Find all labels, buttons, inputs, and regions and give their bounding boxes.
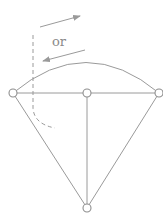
pendulum-diagram: or: [0, 0, 163, 220]
node-center: [83, 89, 91, 97]
arrow-left-icon: [43, 50, 85, 61]
arrow-right-icon: [40, 16, 80, 27]
or-label: or: [52, 34, 67, 49]
node-right: [155, 89, 163, 97]
top-arc: [13, 63, 159, 94]
left-diagonal: [13, 93, 87, 208]
right-diagonal: [87, 93, 159, 208]
node-left: [9, 89, 17, 97]
node-bottom: [83, 204, 91, 212]
